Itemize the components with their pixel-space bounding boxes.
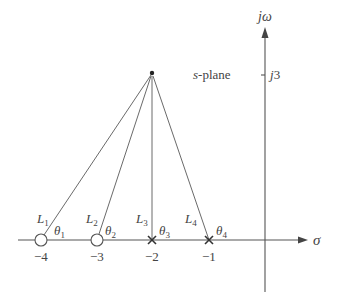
angle-label-theta2: θ2	[105, 223, 116, 240]
zero-marker-icon	[35, 234, 47, 246]
vector-label-L2: L2	[85, 211, 98, 228]
angle-label-theta4: θ4	[216, 223, 227, 240]
vector-L1	[44, 75, 151, 235]
tick-label: −1	[202, 249, 216, 264]
vector-label-L1: L1	[36, 211, 49, 228]
vector-label-L4: L4	[184, 211, 197, 228]
imag-axis-label: jω	[256, 9, 272, 24]
real-axis-arrow-icon	[298, 237, 308, 244]
test-point	[150, 71, 154, 75]
s-plane-diagram: σ jω j3 s-plane −4 −3 −2 −1 L1 L2 L3 L4 …	[0, 0, 338, 302]
tick-label: −2	[145, 249, 159, 264]
imag-axis-arrow-icon	[262, 27, 269, 38]
plane-label: s-plane	[193, 67, 231, 82]
angle-label-theta1: θ1	[54, 223, 65, 240]
tick-label: −3	[90, 249, 104, 264]
imag-axis: jω j3	[256, 9, 280, 292]
real-axis-label: σ	[313, 232, 321, 248]
angle-label-theta3: θ3	[159, 223, 170, 240]
vector-label-L3: L3	[135, 211, 148, 228]
tick-label: −4	[34, 249, 48, 264]
zero-marker-icon	[91, 234, 103, 246]
j3-tick-label: j3	[268, 67, 280, 82]
vector-L4	[153, 76, 209, 240]
